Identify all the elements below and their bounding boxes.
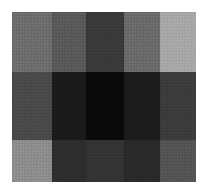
patch-r1-c4	[124, 12, 160, 72]
patch-r3-c5	[160, 140, 196, 182]
patch-r3-c4	[124, 140, 160, 182]
patch-r1-c2	[52, 12, 86, 72]
patch-r1-c5	[160, 12, 196, 72]
patch-r3-c2	[52, 140, 86, 182]
patch-r3-c1	[12, 140, 52, 182]
grayscale-patch-grid	[12, 12, 196, 182]
patch-r3-c3	[86, 140, 124, 182]
patch-r1-c1	[12, 12, 52, 72]
patch-r2-c4	[124, 72, 160, 140]
patch-r2-c5	[160, 72, 196, 140]
patch-r2-c1	[12, 72, 52, 140]
image-canvas	[0, 0, 209, 194]
patch-r2-c2	[52, 72, 86, 140]
patch-r1-c3	[86, 12, 124, 72]
patch-r2-c3	[86, 72, 124, 140]
